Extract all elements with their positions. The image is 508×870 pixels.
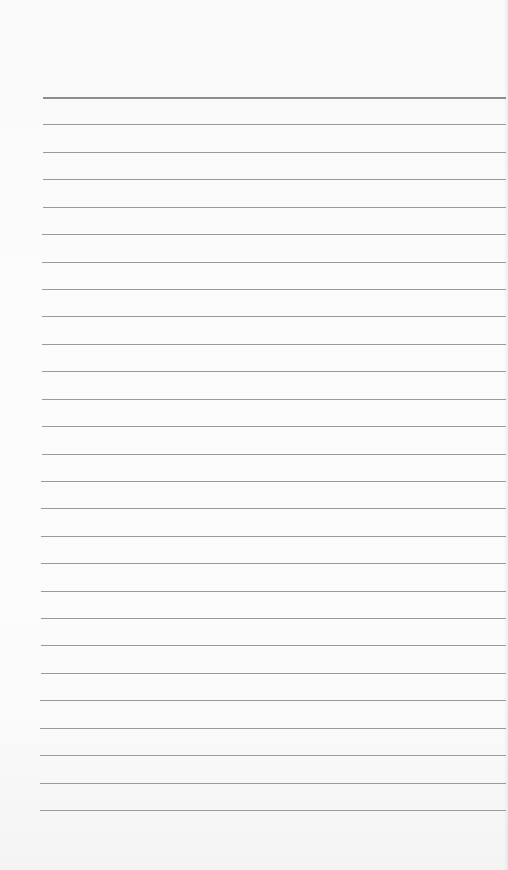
ruled-line [42,234,506,235]
ruled-line [40,810,506,811]
ruled-line [41,645,506,646]
ruled-line [42,262,506,263]
ruled-line [41,591,506,592]
ruled-line [40,728,506,729]
ruled-line [43,152,506,153]
ruled-line [42,399,506,400]
page-edge-shadow [504,0,508,870]
ruled-line [42,344,506,345]
ruled-line [41,563,506,564]
ruled-line [41,508,506,509]
ruled-line [40,755,506,756]
ruled-line [42,454,506,455]
ruled-line [41,673,506,674]
ruled-line [41,618,506,619]
ruled-line [42,426,506,427]
ruled-line [40,783,506,784]
ruled-line [42,371,506,372]
ruled-line [42,289,506,290]
ruled-line [41,481,506,482]
ruled-line [40,700,506,701]
ruled-line [43,207,506,208]
ruled-line [41,536,506,537]
ruled-line [43,179,506,180]
ruled-line [43,97,506,99]
ruled-line [42,316,506,317]
ruled-line [43,124,506,125]
lined-paper-sheet [0,0,508,870]
